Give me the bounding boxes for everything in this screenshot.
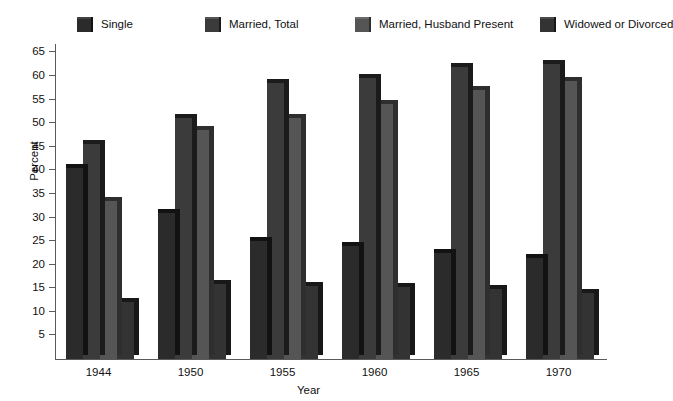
bar-side-face (284, 79, 289, 355)
bar-top-corner (376, 74, 381, 78)
plot-area: 5101520253035404550556065 (55, 44, 607, 360)
y-axis-tick-label: 25 (32, 233, 45, 248)
bar-side-face (83, 164, 88, 355)
bar-top-corner (543, 254, 548, 258)
y-axis-tick: 60 (49, 75, 56, 76)
y-axis-tick: 20 (49, 264, 56, 265)
bar-side-face (468, 63, 473, 355)
bar-top-corner (468, 63, 473, 67)
bar-top-corner (192, 114, 197, 118)
bar-group (434, 44, 502, 359)
chart-legend: SingleMarried, TotalMarried, Husband Pre… (55, 14, 607, 36)
x-axis-category-label: 1950 (157, 366, 225, 378)
bar-face (434, 253, 451, 359)
bar-top-corner (117, 197, 122, 201)
bar-side-face (117, 197, 122, 355)
y-axis-title: Percent (28, 126, 40, 196)
bar-face (342, 246, 359, 359)
x-axis-category-label: 1965 (433, 366, 501, 378)
bar-top-corner (100, 140, 105, 144)
bar-side-face (192, 114, 197, 355)
x-axis-category-label: 1944 (65, 366, 133, 378)
bar-side-face (451, 249, 456, 355)
y-axis-tick: 50 (49, 122, 56, 123)
bar[interactable] (250, 241, 267, 359)
y-axis-tick-label: 60 (32, 68, 45, 83)
legend-item[interactable]: Married, Total (205, 14, 298, 34)
bar[interactable] (526, 258, 543, 359)
bar-side-face (502, 285, 507, 355)
y-axis-tick: 55 (49, 99, 56, 100)
bar-top-corner (175, 209, 180, 213)
bar-top-corner (359, 242, 364, 246)
x-axis-category-label: 1955 (249, 366, 317, 378)
y-axis-tick: 45 (49, 146, 56, 147)
bar-side-face (100, 140, 105, 355)
bar-side-face (175, 209, 180, 355)
bar-side-face (393, 100, 398, 355)
bar-top-corner (134, 298, 139, 302)
bar-side-face (359, 242, 364, 355)
bar-top-corner (451, 249, 456, 253)
y-axis-tick-label: 30 (32, 210, 45, 225)
bar-top-corner (301, 114, 306, 118)
y-axis-tick: 5 (49, 334, 56, 335)
x-axis-title: Year (0, 384, 617, 396)
y-axis-tick: 25 (49, 240, 56, 241)
bar-top-corner (226, 280, 231, 284)
bar-face (526, 258, 543, 359)
bar-side-face (543, 254, 548, 355)
bar-side-face (594, 289, 599, 355)
bar-side-face (560, 60, 565, 355)
y-axis-tick-label: 5 (39, 327, 45, 342)
bar[interactable] (342, 246, 359, 359)
bar-side-face (376, 74, 381, 355)
y-axis-tick: 35 (49, 193, 56, 194)
bar-top-corner (594, 289, 599, 293)
bar-side-face (209, 126, 214, 355)
legend-item-label: Widowed or Divorced (564, 17, 673, 31)
bar-face (158, 213, 175, 359)
bar[interactable] (158, 213, 175, 359)
bar-side-face (134, 298, 139, 355)
bar-group (158, 44, 226, 359)
bar-side-face (410, 283, 415, 355)
x-axis-category-label: 1970 (525, 366, 593, 378)
bar[interactable] (434, 253, 451, 359)
bar-top-corner (267, 237, 272, 241)
y-axis-tick-label: 20 (32, 257, 45, 272)
y-axis-tick: 65 (49, 51, 56, 52)
y-axis-tick: 15 (49, 287, 56, 288)
bar-group (250, 44, 318, 359)
y-axis-tick-label: 55 (32, 92, 45, 107)
bar-side-face (301, 114, 306, 355)
bar-top-corner (410, 283, 415, 287)
bar-top-corner (393, 100, 398, 104)
y-axis-tick-label: 10 (32, 304, 45, 319)
legend-item[interactable]: Married, Husband Present (355, 14, 513, 34)
legend-item-label: Married, Total (229, 17, 298, 31)
bar-group (66, 44, 134, 359)
legend-item[interactable]: Widowed or Divorced (540, 14, 673, 34)
legend-item-label: Single (101, 17, 133, 31)
bar-side-face (318, 282, 323, 355)
bar-top-corner (209, 126, 214, 130)
bar-group (526, 44, 594, 359)
bars-layer (56, 44, 607, 359)
bar-side-face (577, 77, 582, 355)
legend-item[interactable]: Single (77, 14, 133, 34)
bar-face (250, 241, 267, 359)
bar-top-corner (502, 285, 507, 289)
y-axis-tick: 40 (49, 169, 56, 170)
bar-top-corner (560, 60, 565, 64)
bar-side-face (485, 86, 490, 355)
bar-top-corner (83, 164, 88, 168)
legend-swatch-icon (205, 17, 221, 32)
bar-top-corner (284, 79, 289, 83)
bar-face (66, 168, 83, 359)
bar[interactable] (66, 168, 83, 359)
y-axis-tick: 10 (49, 311, 56, 312)
bar-top-corner (318, 282, 323, 286)
y-axis-tick-label: 15 (32, 280, 45, 295)
